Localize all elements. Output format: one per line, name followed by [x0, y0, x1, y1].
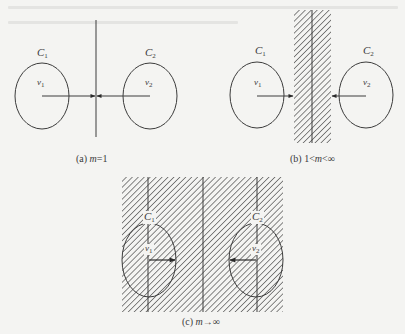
label-sub: 1 [258, 81, 262, 89]
label-v2-a: v2 [145, 78, 153, 89]
caption-var: m [196, 316, 203, 327]
caption-var: m [90, 153, 97, 164]
label-sub: 2 [256, 247, 260, 255]
label-v1-a: v1 [37, 78, 45, 89]
circle-c2 [339, 62, 393, 128]
label-sub: 1 [262, 50, 266, 58]
label-c2-b: C2 [363, 45, 374, 58]
label-v1-c: v1 [144, 244, 154, 255]
label-sub: 2 [367, 81, 371, 89]
diagram-figure [0, 0, 405, 334]
label-c1-c: C1 [143, 211, 156, 224]
caption-rest: =1 [97, 153, 108, 164]
label-sub: 1 [149, 247, 153, 255]
circle-c1 [230, 62, 284, 128]
label-sub: 1 [151, 216, 155, 224]
label-c1-a: C1 [37, 47, 48, 60]
label-c2-a: C2 [145, 47, 156, 60]
label-v2-c: v2 [251, 244, 261, 255]
label-sub: 1 [41, 81, 45, 89]
caption-c: (c) m→∞ [182, 316, 220, 327]
label-sub: 2 [259, 216, 263, 224]
label-c2-c: C2 [251, 211, 264, 224]
label-v1-b: v1 [254, 78, 262, 89]
caption-var: m [315, 153, 322, 164]
label-v2-b: v2 [363, 78, 371, 89]
caption-a: (a) m=1 [76, 153, 107, 164]
label-sub: 2 [152, 52, 156, 60]
caption-prefix: (c) [182, 316, 196, 327]
label-sub: 2 [370, 50, 374, 58]
caption-prefix: (b) 1< [290, 153, 315, 164]
caption-rest: →∞ [203, 316, 220, 327]
label-sub: 1 [44, 52, 48, 60]
caption-prefix: (a) [76, 153, 90, 164]
caption-rest: <∞ [322, 153, 335, 164]
label-sub: 2 [149, 81, 153, 89]
caption-b: (b) 1<m<∞ [290, 153, 335, 164]
label-c1-b: C1 [255, 45, 266, 58]
